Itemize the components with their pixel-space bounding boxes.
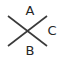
label-b: B [26, 43, 35, 58]
label-a: A [26, 3, 35, 18]
label-c: C [47, 23, 56, 38]
figure-canvas: A B C [0, 0, 62, 61]
x-diagram-svg: A B C [0, 0, 62, 61]
